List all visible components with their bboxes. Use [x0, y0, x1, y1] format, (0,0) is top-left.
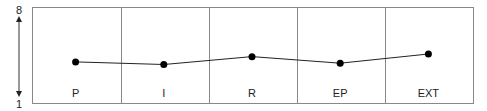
y-axis-bottom-label: 1: [16, 98, 22, 110]
arrow-down-icon: [16, 91, 22, 97]
category-label: EXT: [418, 87, 440, 99]
data-point: [425, 51, 432, 58]
data-point: [249, 53, 256, 60]
y-axis-top-label: 8: [16, 4, 22, 16]
data-point: [160, 61, 167, 68]
y-axis: 8 1: [16, 4, 22, 110]
arrow-up-icon: [16, 16, 22, 22]
chart: 8 1 PIREPEXT: [0, 0, 487, 111]
data-point: [72, 58, 79, 65]
category-label: R: [248, 87, 256, 99]
category-label: I: [162, 87, 165, 99]
category-label: EP: [333, 87, 348, 99]
data-point: [337, 60, 344, 67]
category-label: P: [72, 87, 79, 99]
category-labels: PIREPEXT: [72, 87, 439, 99]
